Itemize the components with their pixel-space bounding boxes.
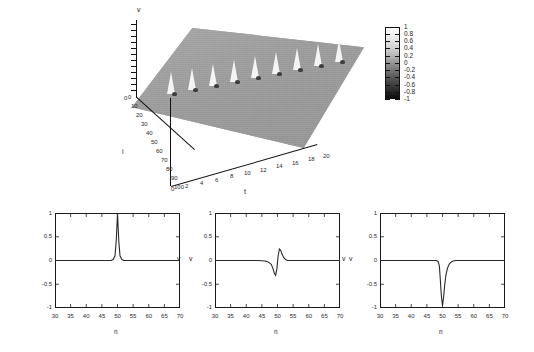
surface-vertical-axis (136, 20, 137, 98)
surface-plot-panel: v 0 (96, 2, 396, 198)
subplot-3-curve (380, 213, 505, 308)
subplot-2: v v n 1 0.5 0 -0.5 -1 30 35 40 45 50 55 … (215, 213, 340, 308)
surface-yaxis-label: i (122, 148, 124, 155)
surface-vaxis-zero: 0 (124, 95, 127, 101)
subplot-1: v n 1 0.5 0 -0.5 -1 30 35 40 45 50 55 60… (55, 213, 180, 308)
subplot-2-curve (215, 213, 340, 308)
subplot-2-ylabel-right: v (349, 255, 353, 262)
subplot-3: v n 1 0.5 0 -0.5 -1 30 35 40 45 50 55 60… (380, 213, 505, 308)
figure-canvas: v 0 (0, 0, 534, 352)
subplot-2-xlabel: n (274, 328, 278, 335)
subplot-2-ylabel-left: v (177, 255, 181, 262)
subplot-1-xlabel: n (114, 328, 118, 335)
subplot-1-curve (55, 213, 180, 308)
surface-box-edge (170, 98, 171, 186)
subplot-3-ylabel: v (342, 255, 346, 262)
surface-xaxis-label: t (244, 188, 246, 195)
surface-zaxis-label: v (137, 6, 141, 13)
subplot-3-xlabel: n (439, 328, 443, 335)
subplot-1-ylabel: v (189, 255, 193, 262)
